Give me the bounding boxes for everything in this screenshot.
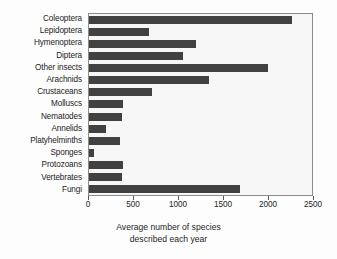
bar (89, 149, 94, 157)
bar (89, 40, 196, 48)
category-label: Diptera (0, 50, 85, 62)
bar (89, 161, 123, 169)
x-axis: 05001000150020002500 (88, 196, 313, 218)
bar (89, 28, 149, 36)
x-tick-label: 1500 (214, 201, 232, 209)
category-label: Molluscs (0, 98, 85, 110)
bar (89, 100, 123, 108)
x-tick-label: 0 (86, 201, 91, 209)
x-axis-title-line: Average number of species (0, 222, 337, 234)
bar-row (89, 86, 312, 98)
bar-row (89, 26, 312, 38)
category-label: Coleoptera (0, 13, 85, 25)
bar-row (89, 38, 312, 50)
x-tick-label: 1000 (169, 201, 187, 209)
x-tick-label: 500 (126, 201, 140, 209)
x-tick-label: 2000 (259, 201, 277, 209)
bar (89, 16, 292, 24)
bar-row (89, 14, 312, 26)
bar (89, 88, 152, 96)
bar-row (89, 62, 312, 74)
x-tick-label: 2500 (304, 201, 322, 209)
bar-row (89, 183, 312, 195)
category-label: Other insects (0, 62, 85, 74)
category-label: Crustaceans (0, 86, 85, 98)
bar-chart: ColeopteraLepidopteraHymenopteraDipteraO… (0, 0, 337, 259)
bar (89, 52, 183, 60)
bar-row (89, 159, 312, 171)
bar (89, 173, 122, 181)
x-axis-title: Average number of speciesdescribed each … (0, 222, 337, 245)
bars-layer (89, 14, 312, 195)
bar (89, 125, 106, 133)
category-label: Vertebrates (0, 172, 85, 184)
x-axis-title-line: described each year (0, 234, 337, 246)
bar-row (89, 50, 312, 62)
category-axis: ColeopteraLepidopteraHymenopteraDipteraO… (0, 13, 85, 196)
bar (89, 137, 120, 145)
category-label: Fungi (0, 184, 85, 196)
category-label: Annelids (0, 123, 85, 135)
category-label: Protozoans (0, 159, 85, 171)
bar-row (89, 74, 312, 86)
category-label: Sponges (0, 147, 85, 159)
bar (89, 76, 209, 84)
bar-row (89, 111, 312, 123)
bar-row (89, 135, 312, 147)
bar-row (89, 147, 312, 159)
category-label: Lepidoptera (0, 25, 85, 37)
bar (89, 64, 268, 72)
category-label: Nematodes (0, 111, 85, 123)
bar (89, 185, 240, 193)
bar-row (89, 98, 312, 110)
plot-area (88, 13, 313, 196)
category-label: Hymenoptera (0, 37, 85, 49)
bar-row (89, 123, 312, 135)
category-label: Arachnids (0, 74, 85, 86)
category-label: Platyhelminths (0, 135, 85, 147)
bar-row (89, 171, 312, 183)
bar (89, 113, 122, 121)
